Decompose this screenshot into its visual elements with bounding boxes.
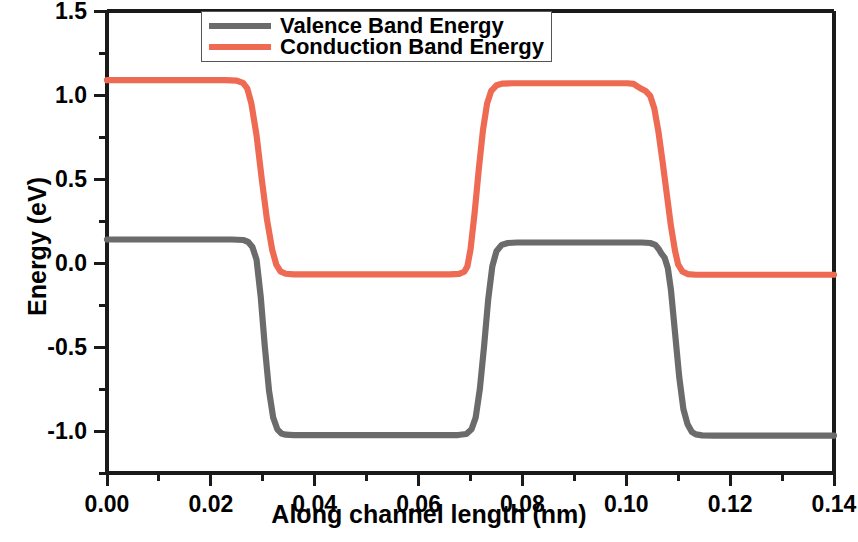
legend-label-conduction-band: Conduction Band Energy	[280, 36, 544, 58]
y-tick-label: 1.0	[55, 82, 87, 109]
series-line-conduction-band	[107, 80, 834, 275]
data-series	[107, 80, 834, 435]
chart-figure: 1.51.00.50.0-0.5-1.00.000.020.040.060.08…	[0, 0, 858, 542]
series-line-valence-band	[107, 239, 834, 435]
plot-canvas	[0, 0, 858, 542]
y-tick-label: 0.5	[55, 166, 87, 193]
legend-swatch-valence-band	[209, 23, 271, 29]
y-axis-title: Energy (eV)	[23, 97, 52, 397]
legend-item-conduction-band: Conduction Band Energy	[209, 36, 544, 57]
y-tick-label: -1.0	[47, 418, 87, 445]
legend-swatch-conduction-band	[209, 44, 271, 50]
y-tick-label: 0.0	[55, 250, 87, 277]
x-axis-title: Along channel length (nm)	[0, 500, 858, 529]
y-tick-label: 1.5	[55, 0, 87, 25]
chart-legend: Valence Band Energy Conduction Band Ener…	[201, 11, 552, 62]
y-tick-label: -0.5	[47, 334, 87, 361]
legend-item-valence-band: Valence Band Energy	[209, 15, 544, 36]
